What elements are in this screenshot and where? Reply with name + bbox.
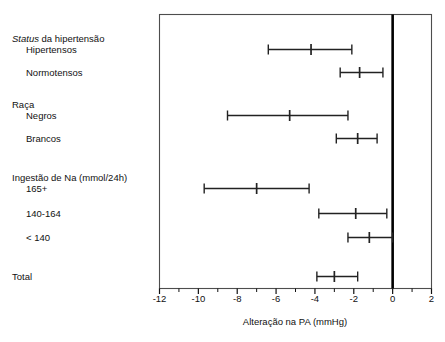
x-tick-label: 0 [390, 293, 395, 304]
plot-frame [160, 15, 432, 289]
forest-plot-svg [0, 0, 445, 342]
data-row-negros [228, 110, 348, 121]
data-row-brancos [336, 133, 377, 144]
plot-area: -12-10-8-6-4-202 Alteração na PA (mmHg) [0, 0, 445, 342]
x-tick-label: -8 [233, 293, 241, 304]
forest-plot-figure: Status da hipertensão Hipertensos Normot… [0, 0, 445, 342]
x-tick-label: -6 [272, 293, 280, 304]
data-row-normotensos [340, 67, 383, 78]
x-tick-label: -4 [311, 293, 319, 304]
x-tick-label: -2 [350, 293, 358, 304]
x-tick-label: -12 [153, 293, 167, 304]
x-axis-title: Alteração na PA (mmHg) [159, 316, 431, 327]
data-row-total [317, 271, 358, 282]
data-row-140-164 [319, 208, 387, 219]
data-row-hipertensos [268, 44, 352, 55]
x-tick-label: -10 [191, 293, 205, 304]
data-row-165 [204, 183, 309, 194]
x-tick-label: 2 [429, 293, 434, 304]
data-row-140 [348, 232, 393, 243]
